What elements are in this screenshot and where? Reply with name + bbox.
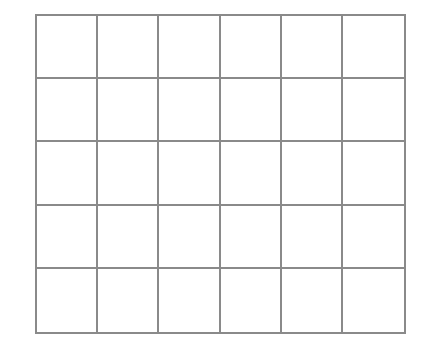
grid-cell [159,206,220,269]
grid-cell [37,79,98,142]
grid-cell [282,206,343,269]
grid-cell [343,142,404,205]
grid-cell [282,79,343,142]
grid-table [35,14,406,334]
grid-cell [37,142,98,205]
grid-cell [221,142,282,205]
grid-cell [343,79,404,142]
grid-cell [282,142,343,205]
grid-cell [343,206,404,269]
grid-cell [282,16,343,79]
grid-cell [98,269,159,332]
grid-cell [98,206,159,269]
grid-cell [282,269,343,332]
grid-cell [221,206,282,269]
grid-cell [98,79,159,142]
grid-cell [37,16,98,79]
grid-cell [221,269,282,332]
grid-cell [37,269,98,332]
grid-cell [221,79,282,142]
grid-cell [98,16,159,79]
grid-cell [159,142,220,205]
grid-cell [37,206,98,269]
grid-cell [98,142,159,205]
grid-cell [159,16,220,79]
grid-cell [343,269,404,332]
grid-cell [343,16,404,79]
grid-cell [159,79,220,142]
grid-cell [221,16,282,79]
grid-cell [159,269,220,332]
